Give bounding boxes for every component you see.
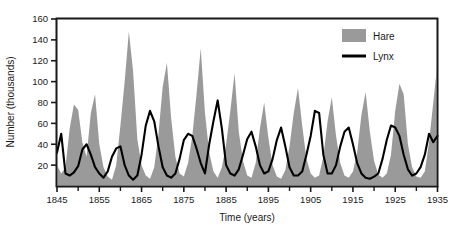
x-axis-tick-label: 1845 bbox=[46, 194, 67, 205]
x-axis-title: Time (years) bbox=[219, 212, 275, 223]
x-axis-tick-label: 1925 bbox=[385, 194, 406, 205]
y-axis-tick-label: 80 bbox=[37, 97, 48, 108]
y-axis-tick-label: 20 bbox=[37, 160, 48, 171]
x-axis-tick-label: 1905 bbox=[300, 194, 321, 205]
x-axis-tick-label: 1915 bbox=[342, 194, 363, 205]
x-axis-tick-label: 1855 bbox=[89, 194, 110, 205]
legend-label-lynx: Lynx bbox=[373, 51, 394, 62]
hare-lynx-population-chart: 20406080100120140160 1845185518651875188… bbox=[0, 0, 464, 226]
y-axis-title: Number (thousands) bbox=[5, 56, 16, 147]
x-axis-tick-label: 1935 bbox=[427, 194, 448, 205]
y-axis-tick-label: 140 bbox=[32, 34, 48, 45]
x-axis-tick-label: 1875 bbox=[173, 194, 194, 205]
chart-canvas: 20406080100120140160 1845185518651875188… bbox=[0, 0, 464, 226]
y-axis-tick-label: 100 bbox=[32, 76, 48, 87]
x-axis-tick-label: 1885 bbox=[216, 194, 237, 205]
y-axis-tick-label: 40 bbox=[37, 139, 48, 150]
x-axis-tick-label: 1865 bbox=[131, 194, 152, 205]
y-axis-tick-label: 120 bbox=[32, 55, 48, 66]
legend-label-hare: Hare bbox=[373, 31, 395, 42]
y-axis-tick-label: 60 bbox=[37, 118, 48, 129]
y-axis-tick-label: 160 bbox=[32, 13, 48, 24]
x-axis-tick-label: 1895 bbox=[258, 194, 279, 205]
legend-swatch-hare bbox=[342, 29, 366, 42]
